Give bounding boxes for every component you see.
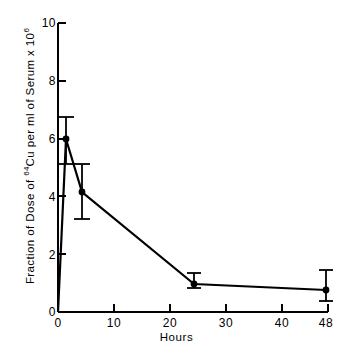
- data-markers-series-0: [63, 136, 330, 294]
- data-point-marker: [323, 287, 330, 294]
- data-point-marker: [191, 281, 198, 288]
- data-point-marker: [79, 189, 86, 196]
- chart-figure: Fraction of Dose of 64Cu per ml of Serum…: [0, 0, 353, 355]
- data-point-marker: [63, 136, 70, 143]
- x-axis-ticks: [114, 304, 328, 312]
- error-bar-point-4: [319, 270, 333, 301]
- plot-area: [0, 0, 353, 355]
